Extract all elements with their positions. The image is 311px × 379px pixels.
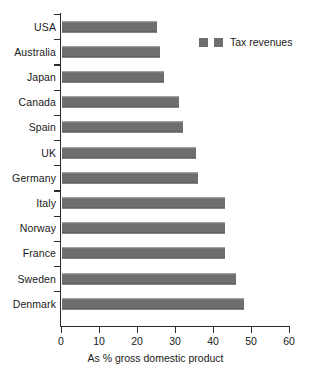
category-tick: [54, 241, 61, 242]
value-tick-label: 20: [131, 335, 143, 347]
bar-row: Germany: [0, 165, 311, 190]
category-tick: [54, 39, 61, 40]
category-label: Norway: [20, 222, 56, 234]
bar-row: Spain: [0, 115, 311, 140]
x-axis-title: As % gross domestic product: [0, 352, 311, 365]
category-label: Spain: [29, 121, 56, 133]
bar: [62, 298, 244, 309]
value-tick-label: 0: [58, 335, 64, 347]
legend-swatch-1: [199, 38, 208, 47]
legend: Tax revenues: [199, 35, 292, 49]
bar: [62, 21, 157, 32]
category-label: Japan: [27, 71, 56, 83]
category-tick: [54, 14, 61, 15]
value-tick: [251, 327, 252, 333]
bar-row: Norway: [0, 216, 311, 241]
category-tick: [54, 165, 61, 166]
bar: [62, 223, 225, 234]
bar: [62, 147, 197, 158]
category-label: Denmark: [13, 298, 56, 310]
category-label: Canada: [19, 96, 56, 108]
value-tick-label: 60: [283, 335, 295, 347]
category-label: USA: [34, 21, 56, 33]
bar: [62, 71, 165, 82]
value-tick: [213, 327, 214, 333]
category-tick: [54, 115, 61, 116]
bar-row: Japan: [0, 64, 311, 89]
value-tick: [289, 327, 290, 333]
category-tick: [54, 216, 61, 217]
bar: [62, 122, 184, 133]
category-label: UK: [41, 147, 56, 159]
bar: [62, 197, 225, 208]
category-tick: [54, 291, 61, 292]
value-tick-label: 10: [93, 335, 105, 347]
value-tick-label: 50: [245, 335, 257, 347]
legend-label-tax-revenues: Tax revenues: [230, 36, 292, 48]
value-tick-label: 30: [169, 335, 181, 347]
category-label: France: [23, 247, 56, 259]
bar: [62, 46, 161, 57]
value-tick: [137, 327, 138, 333]
category-label: Germany: [12, 172, 56, 184]
legend-swatch-2: [214, 38, 223, 47]
bar: [62, 97, 180, 108]
category-tick: [54, 64, 61, 65]
bar-row: Canada: [0, 90, 311, 115]
bar-row: Italy: [0, 190, 311, 215]
value-tick: [175, 327, 176, 333]
category-tick: [54, 90, 61, 91]
category-tick: [54, 266, 61, 267]
category-tick: [54, 190, 61, 191]
bar-row: Denmark: [0, 291, 311, 316]
bar: [62, 172, 199, 183]
bar-row: Sweden: [0, 266, 311, 291]
bar: [62, 248, 225, 259]
bar-row: France: [0, 241, 311, 266]
category-tick: [54, 140, 61, 141]
bar: [62, 273, 237, 284]
value-tick: [61, 327, 62, 333]
category-label: Australia: [14, 46, 56, 58]
value-tick: [99, 327, 100, 333]
bar-row: UK: [0, 140, 311, 165]
bar-chart: USAAustraliaJapanCanadaSpainUKGermanyIta…: [0, 0, 311, 379]
category-label: Sweden: [17, 273, 56, 285]
value-tick-label: 40: [207, 335, 219, 347]
category-label: Italy: [36, 197, 56, 209]
